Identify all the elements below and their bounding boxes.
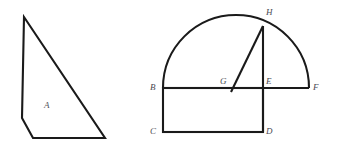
figure-page: A H B G E F C D [0,0,341,154]
segment-hg-slant [231,26,263,92]
geometry-figure-canvas [0,0,341,154]
vertex-label-c: C [150,127,156,136]
vertex-label-h: H [266,8,273,17]
vertex-label-e: E [266,77,272,86]
region-label-a: A [44,101,50,110]
quadrilateral-a-outline [22,17,105,138]
semicircle-arc [163,15,309,88]
vertex-label-f: F [313,83,319,92]
rectangle-bcde [163,88,263,132]
vertex-label-d: D [266,127,273,136]
vertex-label-g: G [220,77,227,86]
vertex-label-b: B [150,83,156,92]
